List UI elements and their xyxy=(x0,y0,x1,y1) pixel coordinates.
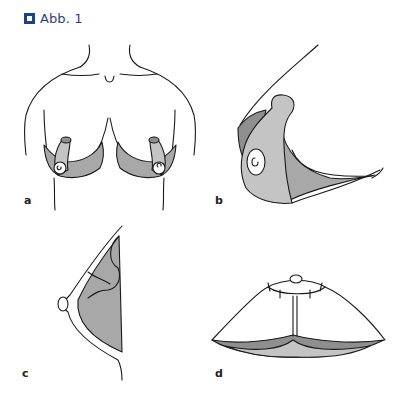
panel-label-b: b xyxy=(215,194,223,207)
panel-b-drawing xyxy=(238,45,383,203)
figure-illustration xyxy=(0,0,414,399)
panel-label-d: d xyxy=(215,367,223,380)
panel-d-drawing xyxy=(212,275,385,357)
panel-label-c: c xyxy=(22,367,29,380)
panel-a-drawing xyxy=(24,45,195,210)
panel-label-a: a xyxy=(24,194,31,207)
panel-c-drawing xyxy=(58,226,122,380)
